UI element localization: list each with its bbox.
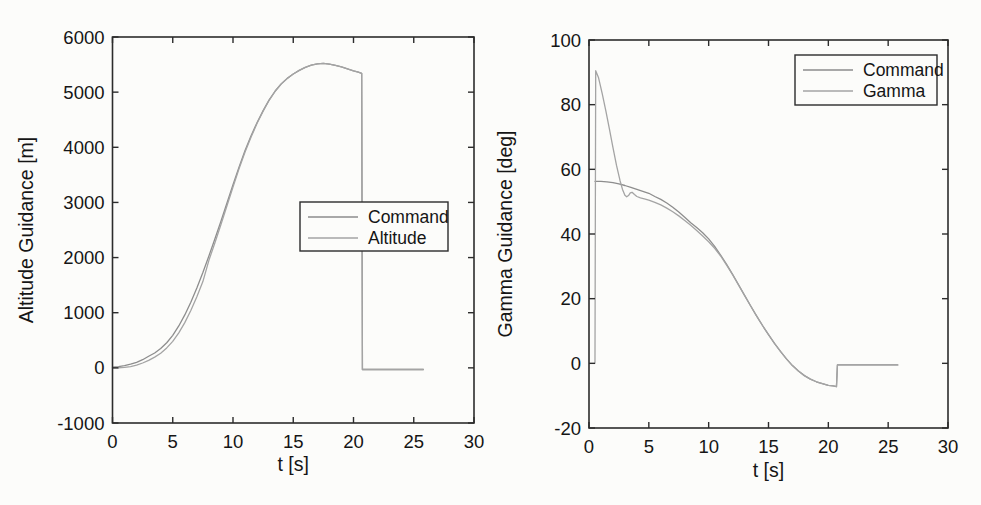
x-tick-label: 0 [584,436,594,457]
x-tick-label: 30 [464,431,485,452]
y-tick-label: 20 [560,288,581,309]
y-tick-label: 6000 [63,27,104,48]
x-tick-label: 25 [403,431,424,452]
legend-label-command: Command [368,207,449,227]
gamma-guidance-chart: 051015202530-20020406080100t [s]Gamma Gu… [494,30,958,482]
y-axis-label: Altitude Guidance [m] [15,137,37,323]
series-line-command [595,181,898,386]
x-axis-label: t [s] [278,453,309,475]
x-tick-label: 30 [938,436,959,457]
series-line-gamma [595,71,898,387]
guidance-figure: 051015202530-100001000200030004000500060… [0,0,981,505]
x-tick-label: 20 [343,431,364,452]
legend-label-gamma: Gamma [863,81,926,101]
y-tick-label: 40 [560,224,581,245]
y-tick-label: 3000 [63,192,104,213]
y-tick-label: 60 [560,159,581,180]
legend-label-command: Command [863,60,944,80]
x-tick-label: 5 [168,431,178,452]
y-tick-label: -1000 [57,413,104,434]
y-axis-label: Gamma Guidance [deg] [494,130,516,337]
x-axis-label: t [s] [753,459,784,481]
x-tick-label: 20 [818,436,839,457]
y-tick-label: 0 [571,353,581,374]
y-tick-label: 2000 [63,247,104,268]
x-tick-label: 15 [758,436,779,457]
x-tick-label: 15 [283,431,304,452]
figure-canvas: 051015202530-100001000200030004000500060… [0,0,981,505]
y-tick-label: 4000 [63,137,104,158]
y-tick-label: 1000 [63,302,104,323]
legend-label-altitude: Altitude [368,228,426,248]
x-tick-label: 5 [644,436,654,457]
altitude-guidance-chart: 051015202530-100001000200030004000500060… [15,27,484,476]
y-tick-label: 80 [560,94,581,115]
x-tick-label: 10 [698,436,719,457]
x-tick-label: 10 [223,431,244,452]
y-tick-label: 100 [550,30,581,51]
x-tick-label: 25 [878,436,899,457]
y-tick-label: 5000 [63,82,104,103]
x-tick-label: 0 [107,431,117,452]
y-tick-label: -20 [554,418,581,439]
y-tick-label: 0 [94,357,104,378]
